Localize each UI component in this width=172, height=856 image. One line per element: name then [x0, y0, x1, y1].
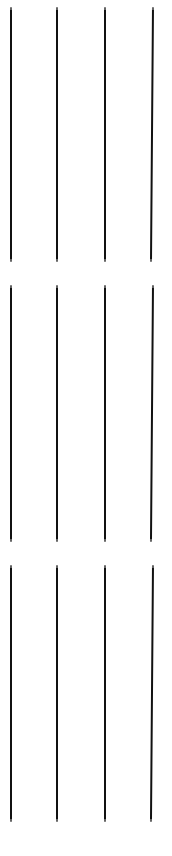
vertical-stroke-g2-1: [10, 285, 12, 542]
figure-canvas: [0, 0, 172, 856]
vertical-stroke-g3-4: [150, 565, 154, 822]
vertical-stroke-g1-4: [150, 7, 154, 262]
vertical-stroke-g2-4: [150, 285, 154, 542]
stroke-group-2: [0, 285, 172, 542]
vertical-stroke-g1-3: [104, 7, 106, 262]
vertical-stroke-g2-2: [56, 285, 58, 542]
vertical-stroke-g1-2: [56, 7, 58, 262]
vertical-stroke-g2-3: [104, 285, 106, 542]
stroke-group-1: [0, 7, 172, 262]
vertical-stroke-g3-3: [104, 565, 106, 822]
vertical-stroke-g3-1: [10, 565, 12, 822]
vertical-stroke-g1-1: [10, 7, 12, 262]
vertical-stroke-g3-2: [56, 565, 58, 822]
stroke-group-3: [0, 565, 172, 822]
